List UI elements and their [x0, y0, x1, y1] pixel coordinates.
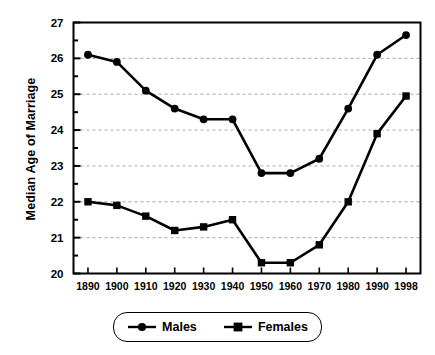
data-point-females	[171, 227, 178, 234]
chart-container: Median Age of Marriage 20212223242526271…	[0, 0, 435, 355]
x-axis-tick-label: 1960	[279, 280, 303, 292]
data-point-males	[171, 105, 179, 113]
x-axis-tick-label: 1910	[134, 280, 158, 292]
x-axis-tick-label: 1998	[394, 280, 418, 292]
data-point-females	[402, 92, 409, 99]
y-axis-tick-label: 20	[51, 268, 64, 280]
data-point-males	[286, 169, 294, 177]
legend-marker-circle-icon	[127, 320, 157, 334]
legend-item-males: Males	[127, 320, 197, 334]
series-line-males	[88, 35, 406, 173]
data-point-males	[373, 51, 381, 59]
y-axis: 2021222324252627	[51, 17, 81, 280]
data-point-males	[315, 155, 323, 163]
legend-label-females: Females	[258, 321, 308, 334]
data-point-males	[84, 51, 92, 59]
data-point-males	[142, 87, 150, 95]
x-axis-tick-label: 1920	[163, 280, 187, 292]
x-axis-tick-label: 1890	[76, 280, 100, 292]
data-point-females	[373, 130, 380, 137]
y-axis-tick-label: 23	[51, 160, 64, 172]
y-axis-tick-label: 24	[51, 124, 64, 136]
x-axis-tick-label: 1930	[192, 280, 216, 292]
data-point-females	[316, 241, 323, 248]
data-point-females	[229, 216, 236, 223]
data-point-males	[113, 58, 121, 66]
data-point-females	[345, 198, 352, 205]
legend-item-females: Females	[223, 320, 308, 334]
data-point-females	[258, 259, 265, 266]
x-axis-tick-label: 1950	[250, 280, 274, 292]
y-axis-tick-label: 27	[51, 17, 64, 29]
chart-legend: Males Females	[113, 312, 322, 342]
data-point-males	[229, 115, 237, 123]
data-point-females	[113, 202, 120, 209]
data-point-females	[200, 223, 207, 230]
series-males	[84, 31, 410, 177]
x-axis-tick-label: 1940	[221, 280, 245, 292]
legend-label-males: Males	[162, 321, 197, 334]
x-axis-tick-label: 1970	[308, 280, 332, 292]
data-point-males	[258, 169, 266, 177]
y-axis-tick-label: 22	[51, 196, 64, 208]
data-point-females	[287, 259, 294, 266]
plot-area: 2021222324252627189019001910192019301940…	[0, 0, 435, 355]
data-point-females	[142, 212, 149, 219]
y-axis-tick-label: 26	[51, 52, 64, 64]
legend-marker-square-icon	[223, 320, 253, 334]
data-point-males	[344, 105, 352, 113]
x-axis: 1890190019101920193019401950196019701980…	[76, 268, 418, 292]
series-females	[84, 92, 409, 266]
x-axis-tick-label: 1990	[365, 280, 389, 292]
x-axis-tick-label: 1980	[337, 280, 361, 292]
data-point-males	[402, 31, 410, 39]
data-point-females	[84, 198, 91, 205]
data-point-males	[200, 115, 208, 123]
y-axis-tick-label: 21	[51, 232, 64, 244]
x-axis-tick-label: 1900	[105, 280, 129, 292]
y-axis-tick-label: 25	[51, 88, 64, 100]
